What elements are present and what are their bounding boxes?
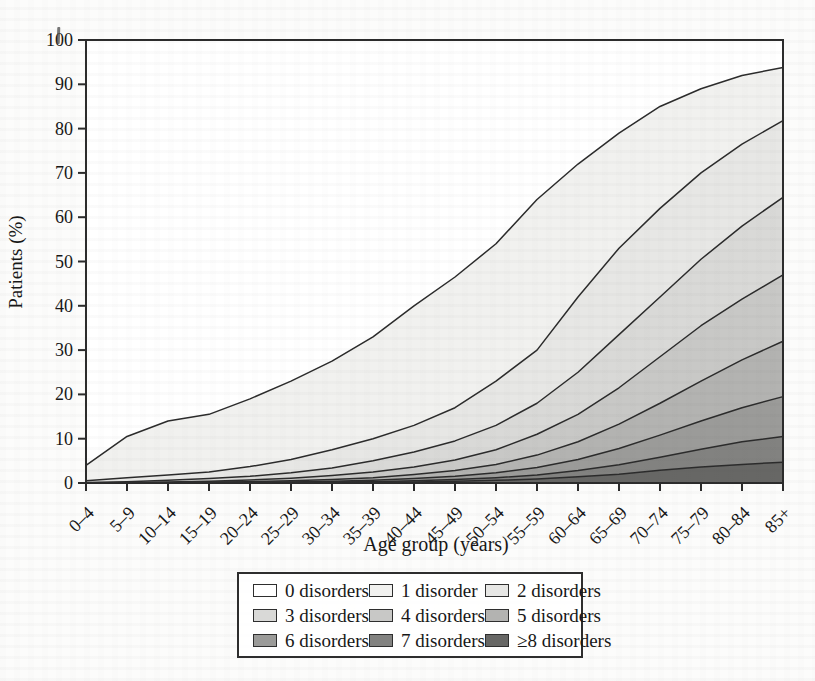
x-tick-label: 60–64 — [544, 503, 590, 549]
x-tick-label: 55–59 — [503, 503, 549, 549]
y-tick-label: 20 — [55, 384, 73, 404]
x-tick-label: 20–24 — [216, 503, 262, 549]
legend-label: 5 disorders — [517, 604, 601, 627]
legend-item-6-disorders: 6 disorders — [253, 628, 369, 653]
y-tick-label: 80 — [55, 119, 73, 139]
legend-label: 2 disorders — [517, 579, 601, 602]
x-tick-label: 0–4 — [65, 503, 98, 536]
x-tick-label: 70–74 — [626, 503, 672, 549]
y-tick-label: 40 — [55, 296, 73, 316]
legend-label: 6 disorders — [285, 629, 369, 652]
y-tick-label: 70 — [55, 163, 73, 183]
x-tick-label: 25–29 — [257, 503, 303, 549]
x-tick-label: 75–79 — [667, 503, 713, 549]
legend-label: ≥8 disorders — [517, 629, 611, 652]
x-tick-label: 80–84 — [708, 503, 754, 549]
legend-label: 7 disorders — [401, 629, 485, 652]
y-tick-label: 60 — [55, 207, 73, 227]
legend-swatch-4-disorders — [369, 609, 393, 622]
figure: 0102030405060708090100 0–45–910–1415–192… — [0, 0, 815, 681]
x-axis-title: Age group (years) — [363, 533, 509, 556]
legend-item-8plus-disorders: ≥8 disorders — [485, 628, 595, 653]
legend-label: 1 disorder — [401, 579, 478, 602]
legend-item-1-disorder: 1 disorder — [369, 578, 485, 603]
x-tick-label: 85+ — [761, 503, 795, 537]
legend-swatch-3-disorders — [253, 609, 277, 622]
legend-item-2-disorders: 2 disorders — [485, 578, 595, 603]
legend-swatch-0-disorders — [253, 584, 277, 597]
legend-swatch-8plus-disorders — [485, 634, 509, 647]
x-tick-label: 30–34 — [298, 503, 344, 549]
chart-legend: 0 disorders 1 disorder 2 disorders 3 dis… — [237, 572, 583, 658]
y-tick-label: 50 — [55, 252, 73, 272]
y-tick-label: 90 — [55, 74, 73, 94]
legend-swatch-1-disorder — [369, 584, 393, 597]
legend-swatch-2-disorders — [485, 584, 509, 597]
x-tick-label: 10–14 — [134, 503, 180, 549]
legend-item-3-disorders: 3 disorders — [253, 603, 369, 628]
legend-item-5-disorders: 5 disorders — [485, 603, 595, 628]
scan-artifact — [57, 27, 61, 44]
x-tick-label: 15–19 — [175, 503, 221, 549]
legend-swatch-7-disorders — [369, 634, 393, 647]
stacked-area-chart: 0102030405060708090100 0–45–910–1415–192… — [0, 0, 815, 572]
legend-label: 3 disorders — [285, 604, 369, 627]
legend-item-7-disorders: 7 disorders — [369, 628, 485, 653]
y-axis-ticks — [78, 40, 86, 483]
x-axis-ticks — [86, 483, 783, 491]
y-axis-tick-labels: 0102030405060708090100 — [46, 30, 73, 493]
x-tick-label: 5–9 — [106, 503, 139, 536]
legend-swatch-6-disorders — [253, 634, 277, 647]
y-tick-label: 10 — [55, 429, 73, 449]
y-tick-label: 0 — [64, 473, 73, 493]
legend-item-0-disorders: 0 disorders — [253, 578, 369, 603]
legend-label: 0 disorders — [285, 579, 369, 602]
x-tick-label: 65–69 — [585, 503, 631, 549]
y-axis-title: Patients (%) — [5, 215, 27, 308]
y-tick-label: 30 — [55, 340, 73, 360]
legend-item-4-disorders: 4 disorders — [369, 603, 485, 628]
legend-swatch-5-disorders — [485, 609, 509, 622]
legend-label: 4 disorders — [401, 604, 485, 627]
